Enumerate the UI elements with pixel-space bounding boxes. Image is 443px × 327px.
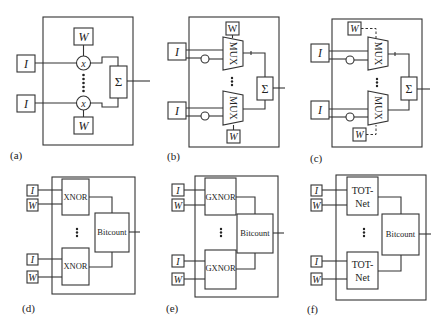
mux-label: MUX [228, 42, 239, 66]
totnet-label: TOT- [352, 259, 374, 270]
panel-label: (e) [166, 302, 179, 315]
panel-d: I W I W XNOR XNOR Bitcount (d) [22, 177, 140, 315]
mux-label: MUX [373, 42, 384, 66]
panel-e: I W I W GXNOR GXNOR Bitcount (e) [166, 176, 284, 315]
gxnor-label: GXNOR [205, 263, 236, 273]
bitcount-label: Bitcount [240, 228, 270, 238]
input-label: I [175, 256, 180, 267]
weight-label: W [79, 119, 90, 133]
gxnor-label: GXNOR [205, 192, 236, 202]
multiply-label: x [80, 58, 86, 69]
ellipsis-dots [220, 228, 222, 237]
inverter-icon [201, 55, 209, 63]
sum-label: Σ [406, 82, 413, 96]
ellipsis-dots [376, 78, 378, 87]
panel-f: I W I W TOT- Net TOT- Net Bitcount (f) [307, 175, 431, 316]
xnor-label: XNOR [63, 192, 87, 202]
panel-label: (a) [10, 149, 23, 162]
panel-label: (f) [307, 303, 318, 316]
input-label: I [30, 185, 35, 196]
inverter-icon [346, 56, 354, 64]
inverter-icon [346, 113, 354, 121]
bitcount-label: Bitcount [97, 227, 127, 237]
panel-c: I I W W MUX MUX Σ (c) [310, 19, 430, 165]
bitcount-label: Bitcount [386, 229, 416, 239]
multiply-label: x [80, 98, 86, 109]
panel-label: (b) [167, 150, 180, 163]
panel-b: I I W W MUX MUX Σ (b) [167, 17, 285, 163]
totnet-label: Net [355, 198, 370, 209]
mux-label: MUX [228, 96, 239, 120]
panel-label: (c) [310, 152, 323, 165]
totnet-label: TOT- [352, 185, 374, 196]
input-label: I [175, 185, 180, 196]
inverter-icon [201, 112, 209, 120]
panel-label: (d) [22, 302, 35, 315]
ellipsis-dots [76, 228, 78, 237]
ellipsis-dots [363, 228, 365, 237]
sum-label: Σ [262, 82, 269, 96]
xnor-label: XNOR [63, 261, 87, 271]
weight-label: W [79, 30, 90, 44]
totnet-box-top [347, 177, 378, 215]
diagram-canvas: I I W W x x Σ (a) I I [0, 0, 443, 327]
totnet-box-bottom [347, 252, 378, 289]
totnet-label: Net [355, 272, 370, 283]
mux-label: MUX [373, 96, 384, 120]
panel-a: I I W W x x Σ (a) [10, 17, 150, 162]
ellipsis-dots [231, 77, 233, 86]
input-label: I [314, 256, 319, 267]
sum-label: Σ [115, 74, 123, 89]
input-label: I [30, 254, 35, 265]
input-label: I [314, 185, 319, 196]
weight-label: W [228, 23, 238, 34]
